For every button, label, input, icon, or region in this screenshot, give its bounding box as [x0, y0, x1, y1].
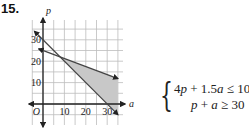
svg-text:10: 10: [31, 77, 41, 88]
svg-text:10: 10: [59, 106, 69, 117]
inequality-2: p + a ≥ 30: [191, 97, 244, 113]
svg-text:30: 30: [102, 106, 112, 117]
svg-text:a: a: [129, 98, 134, 109]
svg-text:30: 30: [31, 34, 41, 45]
svg-text:20: 20: [81, 106, 91, 117]
boundary-lines: [34, 31, 117, 114]
left-brace: {: [160, 77, 173, 111]
inequality-1: 4p + 1.5a ≤ 100: [174, 81, 249, 97]
svg-text:20: 20: [31, 56, 41, 67]
svg-text:O: O: [33, 106, 40, 117]
svg-text:p: p: [45, 5, 51, 16]
